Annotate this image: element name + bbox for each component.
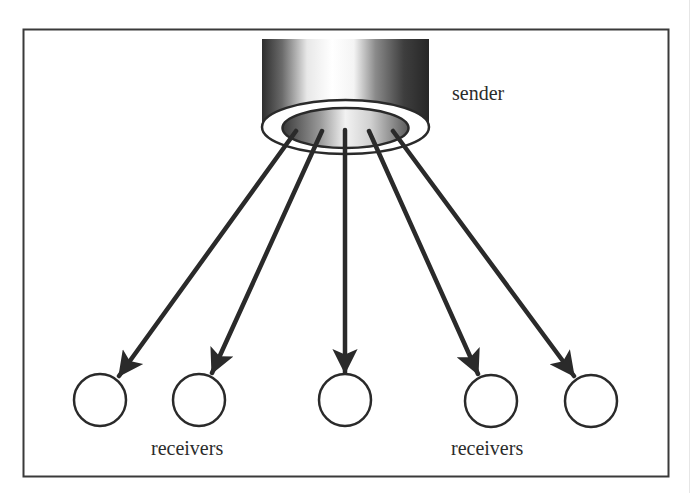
- receiver-node-4: [465, 375, 517, 427]
- arrow-to-receiver-1: [119, 131, 296, 376]
- receiver-node-1: [74, 374, 126, 426]
- receivers-label-right: receivers: [451, 437, 523, 459]
- multicast-arrows: [119, 130, 574, 376]
- receiver-node-2: [173, 374, 225, 426]
- receiver-node-5: [565, 375, 617, 427]
- sender-label: sender: [452, 82, 505, 104]
- arrow-to-receiver-4: [369, 131, 478, 374]
- multicast-diagram: sender receivers receivers: [0, 0, 691, 493]
- arrow-to-receiver-5: [393, 131, 574, 376]
- receiver-nodes: [74, 374, 617, 427]
- receiver-node-3: [319, 374, 371, 426]
- receivers-label-left: receivers: [151, 437, 223, 459]
